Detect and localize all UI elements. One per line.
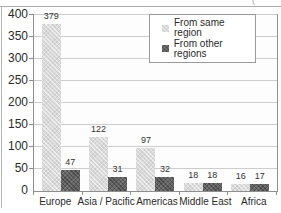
y-axis: 050100150200250300350400 xyxy=(0,14,29,190)
bar-slot: 31 xyxy=(108,15,127,191)
y-tick-label: 200 xyxy=(8,96,28,108)
bar-value-label: 32 xyxy=(160,165,170,175)
bar-from-same-region xyxy=(89,137,108,191)
x-tick-mark xyxy=(82,191,83,195)
category-label: Middle East xyxy=(179,196,231,207)
x-tick-mark xyxy=(227,191,228,195)
category-label: Asia / Pacific xyxy=(78,196,135,207)
y-tick-label: 100 xyxy=(8,140,28,152)
bar-from-same-region xyxy=(42,24,61,191)
y-tick-label: 350 xyxy=(8,30,28,42)
x-tick-mark xyxy=(130,191,131,195)
legend-swatch xyxy=(162,25,169,32)
x-tick-mark xyxy=(276,191,277,195)
legend: From same regionFrom other regions xyxy=(149,14,256,63)
bar-value-label: 379 xyxy=(44,12,59,22)
x-axis-labels: EuropeAsia / PacificAmericasMiddle EastA… xyxy=(33,196,276,207)
bar-from-other-regions xyxy=(250,184,269,191)
bar-from-other-regions xyxy=(155,177,174,191)
category-label: Americas xyxy=(135,196,180,207)
bar-value-label: 17 xyxy=(255,172,265,182)
bar-from-same-region xyxy=(184,183,203,191)
scan-border-top xyxy=(0,6,281,7)
y-tick-label: 400 xyxy=(8,8,28,20)
y-tick-label: 50 xyxy=(15,162,28,174)
y-tick-label: 300 xyxy=(8,52,28,64)
category-label: Africa xyxy=(232,196,277,207)
bar-from-other-regions xyxy=(203,183,222,191)
bar-slot: 122 xyxy=(89,15,108,191)
bar-value-label: 122 xyxy=(91,125,106,135)
y-tick-label: 150 xyxy=(8,118,28,130)
legend-label: From same region xyxy=(174,18,255,38)
bar-value-label: 18 xyxy=(188,171,198,181)
bar-slot: 47 xyxy=(61,15,80,191)
bar-value-label: 18 xyxy=(207,171,217,181)
bar-value-label: 47 xyxy=(65,158,75,168)
bar-value-label: 16 xyxy=(236,172,246,182)
bar-group-asia-pacific: 12231 xyxy=(89,15,127,191)
bar-from-same-region xyxy=(136,148,155,191)
legend-item: From other regions xyxy=(162,39,255,59)
bar-value-label: 97 xyxy=(141,136,151,146)
bar-value-label: 31 xyxy=(113,165,123,175)
category-label: Europe xyxy=(33,196,78,207)
legend-swatch xyxy=(162,45,169,52)
legend-item: From same region xyxy=(162,18,255,38)
bar-from-same-region xyxy=(231,184,250,191)
x-tick-mark xyxy=(33,191,34,195)
bar-chart-figure: ( ) 050100150200250300350400 37947122319… xyxy=(0,0,281,213)
plot-area: 3794712231973218181617 From same regionF… xyxy=(33,14,278,192)
legend-label: From other regions xyxy=(174,39,255,59)
x-ticks xyxy=(33,191,276,195)
bar-from-other-regions xyxy=(108,177,127,191)
y-tick-label: 0 xyxy=(21,184,28,196)
bar-slot: 379 xyxy=(42,15,61,191)
cropped-text-fragment: ( ) xyxy=(252,0,278,5)
bar-group-europe: 37947 xyxy=(42,15,80,191)
x-tick-mark xyxy=(179,191,180,195)
bar-from-other-regions xyxy=(61,170,80,191)
y-tick-label: 250 xyxy=(8,74,28,86)
